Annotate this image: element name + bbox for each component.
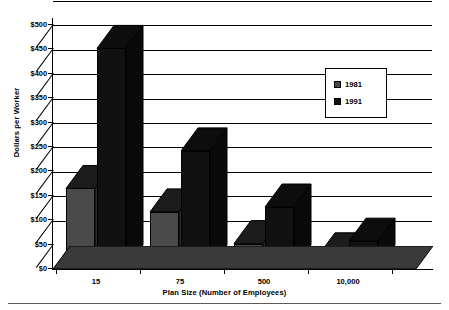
x-axis-tick-mark [224,268,225,274]
y-axis-line [52,18,53,269]
y-axis-tick-label: $0 [5,264,47,273]
bar-1981-10000 [318,18,347,268]
legend-swatch-icon [334,98,341,105]
y-axis-tick-label: $450 [5,44,47,53]
bar-1981-75 [150,18,179,268]
x-axis-tick-mark [140,268,141,274]
y-axis-tick-label: $250 [5,142,47,151]
x-axis-title: Plan Size (Number of Employees) [0,288,449,297]
y-axis-tick-label: $200 [5,166,47,175]
bar-1991-15 [97,18,126,268]
y-axis-tick-label: $400 [5,68,47,77]
bar-1981-500 [234,18,263,268]
legend-item-1991: 1991 [334,93,386,110]
legend-swatch-icon [334,81,341,88]
floor-plane [53,246,433,269]
bar-1991-10000 [349,18,378,268]
legend-label: 1991 [345,98,362,106]
bar-1991-75 [181,18,210,268]
y-axis-tick-label: $350 [5,93,47,102]
legend-label: 1981 [345,81,362,89]
bar-1991-500 [265,18,294,268]
x-axis-tick-mark [308,268,309,274]
x-axis-tick-mark [392,268,393,274]
y-axis-tick-label: $500 [5,20,47,29]
bottom-divider [8,303,441,304]
x-axis-tick-label: 500 [258,277,271,286]
x-axis-tick-label: 15 [92,277,100,286]
y-axis-tick-label: $50 [5,239,47,248]
y-axis-tick-label: $150 [5,190,47,199]
legend: 19811991 [325,68,387,118]
x-axis-line [52,269,433,270]
x-axis-tick-label: 75 [176,277,184,286]
x-axis-tick-label: 10,000 [336,277,359,286]
plot-area [53,18,432,268]
bar-chart: Dollars per Worker $0$50$100$150$200$250… [0,0,449,310]
y-axis-tick-label: $300 [5,117,47,126]
legend-item-1981: 1981 [334,76,386,93]
y-axis-tick-label: $100 [5,215,47,224]
y-axis-tick-labels: $0$50$100$150$200$250$300$350$400$450$50… [0,0,47,310]
bar-1981-15 [66,18,95,268]
x-axis-tick-mark [56,268,57,274]
bar-3d-faces [349,0,397,273]
bar-front-face [97,48,126,268]
